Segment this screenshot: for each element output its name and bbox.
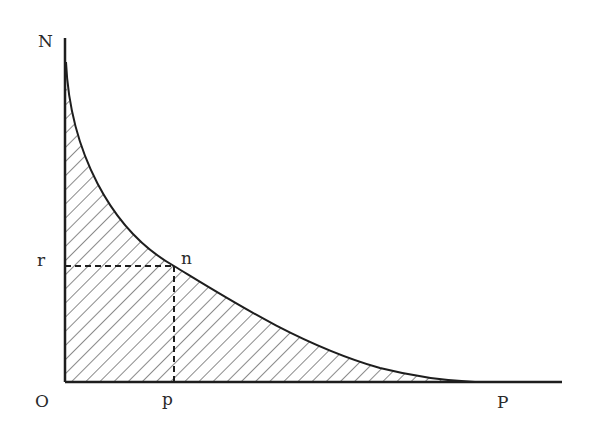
label-N: N — [38, 31, 53, 51]
label-r: r — [37, 250, 46, 270]
diagram-canvas: N r n O p P — [0, 0, 592, 436]
label-P: P — [497, 392, 508, 412]
label-n: n — [181, 248, 192, 268]
shaded-area — [65, 60, 485, 385]
label-p: p — [162, 389, 173, 409]
label-O: O — [35, 391, 49, 411]
